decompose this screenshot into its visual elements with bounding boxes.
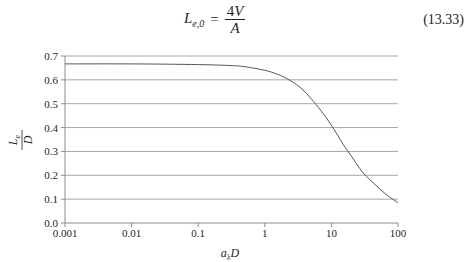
- x-axis-title-text: aλD: [221, 246, 240, 262]
- x-tick-label: 10: [326, 227, 338, 239]
- x-tick-label: 0.001: [53, 227, 78, 239]
- y-tick-label: 0.5: [44, 98, 58, 110]
- y-axis-title-numerator: Le: [6, 134, 22, 146]
- y-tick-label: 0.6: [44, 74, 58, 86]
- y-axis-title: LeD: [6, 130, 35, 150]
- x-tick-label: 0.01: [122, 227, 141, 239]
- gridlines: [65, 56, 398, 199]
- axes: [61, 56, 398, 227]
- data-series-curve: [65, 64, 398, 203]
- x-tick-label: 100: [390, 227, 407, 239]
- y-axis-tick-labels: 0.00.10.20.30.40.50.60.7: [44, 50, 58, 229]
- x-tick-label: 1: [262, 227, 268, 239]
- line-chart: 0.00.10.20.30.40.50.60.7 0.0010.010.1110…: [0, 0, 472, 262]
- y-tick-label: 0.1: [44, 193, 58, 205]
- x-axis-title: aλD: [221, 246, 240, 262]
- y-tick-label: 0.2: [44, 169, 58, 181]
- x-axis-tick-labels: 0.0010.010.1110100: [53, 227, 407, 239]
- y-axis-title-denominator: D: [21, 135, 35, 145]
- y-tick-label: 0.4: [44, 122, 58, 134]
- x-tick-label: 0.1: [191, 227, 205, 239]
- y-tick-label: 0.3: [44, 145, 58, 157]
- y-tick-label: 0.7: [44, 50, 58, 62]
